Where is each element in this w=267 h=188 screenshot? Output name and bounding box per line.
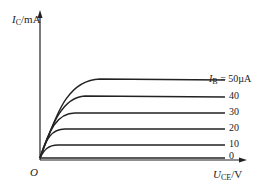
transistor-output-characteristics-plot bbox=[0, 0, 267, 188]
curve-label-20: 20 bbox=[229, 123, 239, 133]
origin-label: O bbox=[30, 167, 38, 178]
x-axis-label-unit: /V bbox=[231, 168, 242, 180]
x-axis-arrow-icon bbox=[239, 158, 247, 163]
origin-label-text: O bbox=[30, 166, 38, 178]
x-axis-label: UCE/V bbox=[213, 169, 242, 182]
curve-label-0: 0 bbox=[229, 151, 234, 161]
curve-ib-30 bbox=[40, 113, 225, 158]
y-axis-label-unit: /mA bbox=[21, 13, 41, 25]
ib-label-value: = 50µA bbox=[218, 73, 252, 84]
curve-label-10: 10 bbox=[229, 139, 239, 149]
curve-ib-10 bbox=[40, 145, 225, 158]
curve-ib-20 bbox=[40, 129, 225, 158]
x-axis-label-sub: CE bbox=[221, 173, 231, 182]
x-axis-label-main: U bbox=[213, 168, 221, 180]
curve-label-30: 30 bbox=[229, 107, 239, 117]
curve-label-40: 40 bbox=[229, 91, 239, 101]
curve-ib-50 bbox=[40, 79, 225, 158]
y-axis-label: IC/mA bbox=[12, 14, 41, 27]
curve-ib-40 bbox=[40, 96, 225, 158]
curve-label-ib-50: IB = 50µA bbox=[209, 74, 251, 86]
